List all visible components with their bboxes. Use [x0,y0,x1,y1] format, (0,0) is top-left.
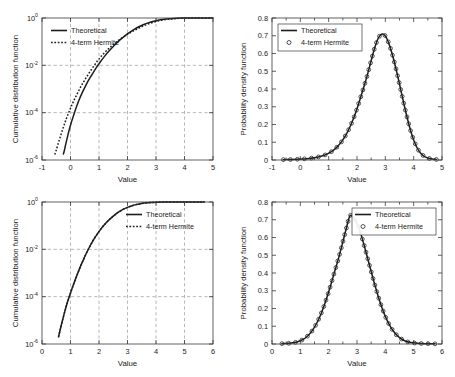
svg-text:10-2: 10-2 [25,60,38,70]
svg-text:0.8: 0.8 [258,198,268,207]
svg-text:4-term Hermite: 4-term Hermite [301,38,349,47]
svg-text:0: 0 [68,163,72,172]
svg-text:0.6: 0.6 [258,233,268,242]
svg-text:0: 0 [270,347,274,356]
svg-text:0.7: 0.7 [258,215,268,224]
panel-pdf-bottom-right: 012345600.10.20.30.40.50.60.70.8ValuePro… [228,188,455,377]
svg-text:-1: -1 [39,163,46,172]
svg-text:0.7: 0.7 [258,31,268,40]
panel-pdf-top-right: -101234500.10.20.30.40.50.60.70.8ValuePr… [228,0,455,190]
svg-text:0.5: 0.5 [258,251,268,260]
svg-text:0: 0 [264,340,268,349]
svg-text:Value: Value [347,175,366,184]
legend-cdf-top-left: Theoretical4-term Hermite [51,26,119,47]
svg-text:1: 1 [298,347,302,356]
svg-text:1: 1 [327,163,331,172]
svg-text:10-4: 10-4 [25,107,38,117]
svg-text:Theoretical: Theoretical [146,210,182,219]
svg-text:4: 4 [154,347,158,356]
svg-text:Cumulative distribution functi: Cumulative distribution function [11,35,20,143]
svg-text:0.4: 0.4 [258,85,268,94]
svg-text:1: 1 [97,163,101,172]
svg-text:Theoretical: Theoretical [375,210,411,219]
svg-text:3: 3 [383,163,387,172]
svg-text:0.1: 0.1 [258,322,268,331]
curves-pdf-top-right [281,34,438,162]
svg-text:0.5: 0.5 [258,67,268,76]
svg-text:5: 5 [440,163,444,172]
svg-text:5: 5 [211,163,215,172]
svg-text:Probability density function: Probability density function [239,43,248,136]
svg-text:4: 4 [383,347,387,356]
svg-text:6: 6 [440,347,444,356]
legend-pdf-top-right: Theoretical4-term Hermite [278,24,362,51]
svg-text:0.4: 0.4 [258,269,268,278]
svg-text:3: 3 [355,347,359,356]
svg-text:0.1: 0.1 [258,138,268,147]
svg-text:0.2: 0.2 [258,304,268,313]
svg-text:Value: Value [118,359,137,368]
svg-text:3: 3 [125,347,129,356]
svg-text:10-6: 10-6 [25,338,38,348]
svg-text:3: 3 [154,163,158,172]
svg-text:2: 2 [125,163,129,172]
svg-text:Probability density function: Probability density function [239,227,248,320]
svg-text:0.2: 0.2 [258,120,268,129]
legend-cdf-bottom-left: Theoretical4-term Hermite [126,210,194,231]
svg-text:4-term Hermite: 4-term Hermite [375,222,423,231]
panel-cdf-bottom-left: 012345610010-210-410-6ValueCumulative di… [0,188,228,377]
svg-text:10-6: 10-6 [25,154,38,164]
svg-text:100: 100 [27,12,38,22]
figure-root: -101234510010-210-410-6ValueCumulative d… [0,0,455,377]
panel-cdf-top-left: -101234510010-210-410-6ValueCumulative d… [0,0,228,190]
svg-text:4-term Hermite: 4-term Hermite [71,38,119,47]
legend-pdf-bottom-right: Theoretical4-term Hermite [352,208,436,235]
svg-text:2: 2 [355,163,359,172]
svg-text:5: 5 [412,347,416,356]
svg-text:0: 0 [40,347,44,356]
svg-text:Theoretical: Theoretical [71,26,107,35]
svg-text:4: 4 [182,163,186,172]
svg-text:Cumulative distribution functi: Cumulative distribution function [11,219,20,327]
svg-text:100: 100 [27,196,38,206]
svg-text:2: 2 [327,347,331,356]
svg-text:Value: Value [347,359,366,368]
svg-text:Theoretical: Theoretical [301,26,337,35]
svg-text:10-2: 10-2 [25,244,38,254]
svg-text:0: 0 [264,156,268,165]
svg-text:1: 1 [68,347,72,356]
svg-text:10-4: 10-4 [25,291,38,301]
svg-text:0.3: 0.3 [258,286,268,295]
svg-text:4-term Hermite: 4-term Hermite [146,222,194,231]
svg-text:0.8: 0.8 [258,14,268,23]
svg-text:Value: Value [118,175,137,184]
svg-text:0: 0 [298,163,302,172]
svg-text:2: 2 [97,347,101,356]
svg-text:0.3: 0.3 [258,102,268,111]
svg-text:5: 5 [182,347,186,356]
svg-text:-1: -1 [269,163,276,172]
svg-text:4: 4 [412,163,416,172]
svg-text:0.6: 0.6 [258,49,268,58]
svg-text:6: 6 [211,347,215,356]
